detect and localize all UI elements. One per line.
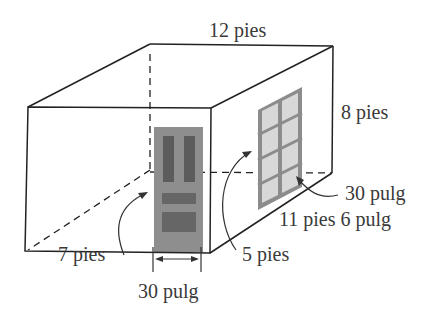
door-height-arrow [119,193,146,255]
label-width: 11 pies 6 pulg [279,208,391,231]
label-length: 12 pies [209,19,266,42]
door [154,127,203,252]
window [258,87,302,210]
label-window-height: 5 pies [242,243,289,266]
label-door-height: 7 pies [58,243,105,266]
label-door-width: 30 pulg [138,280,199,303]
room-diagram: 12 pies 8 pies 30 pulg 11 pies 6 pulg 7 … [0,0,441,319]
label-height: 8 pies [341,101,388,124]
hidden-floor-edge-left [28,170,150,250]
label-window-width: 30 pulg [345,182,406,205]
pointer-arrows [119,151,338,255]
